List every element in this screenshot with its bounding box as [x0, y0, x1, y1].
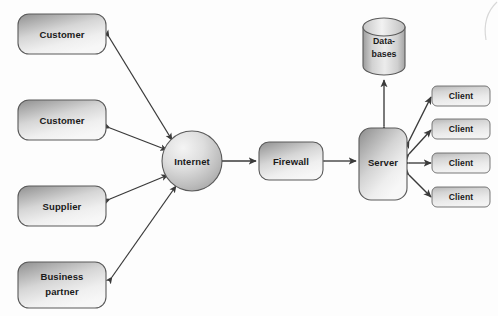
business-partner-shape[interactable] [18, 262, 106, 308]
connection-supplier-internet [110, 175, 168, 199]
node-internet[interactable]: Internet [162, 131, 222, 191]
databases-top [363, 18, 405, 36]
node-firewall[interactable]: Firewall [259, 142, 323, 180]
network-diagram: Customer Customer Supplier Business part… [0, 0, 498, 316]
connection-customer1-internet [109, 37, 172, 140]
node-databases[interactable]: Data- bases [363, 18, 405, 75]
customer-2-shape[interactable] [18, 100, 106, 140]
node-client-4[interactable]: Client [432, 187, 490, 207]
client-2-shape[interactable] [432, 119, 490, 139]
connection-businesspartner-internet [112, 186, 176, 277]
node-supplier[interactable]: Supplier [18, 186, 106, 226]
supplier-shape[interactable] [18, 186, 106, 226]
server-shape[interactable] [359, 128, 407, 200]
node-customer-2[interactable]: Customer [18, 100, 106, 140]
page-curl-artifact [485, 2, 497, 40]
client-1-shape[interactable] [432, 86, 490, 106]
node-server[interactable]: Server [359, 128, 407, 200]
internet-shape[interactable] [162, 131, 222, 191]
client-3-shape[interactable] [432, 153, 490, 173]
node-client-2[interactable]: Client [432, 119, 490, 139]
client-4-shape[interactable] [432, 187, 490, 207]
firewall-shape[interactable] [259, 142, 323, 180]
customer-1-shape[interactable] [18, 14, 106, 54]
node-client-1[interactable]: Client [432, 86, 490, 106]
connection-server-client4 [409, 175, 431, 197]
connection-customer2-internet [110, 128, 167, 150]
node-client-3[interactable]: Client [432, 153, 490, 173]
node-customer-1[interactable]: Customer [18, 14, 106, 54]
diagram-canvas: Customer Customer Supplier Business part… [0, 0, 498, 316]
node-business-partner[interactable]: Business partner [18, 262, 106, 308]
